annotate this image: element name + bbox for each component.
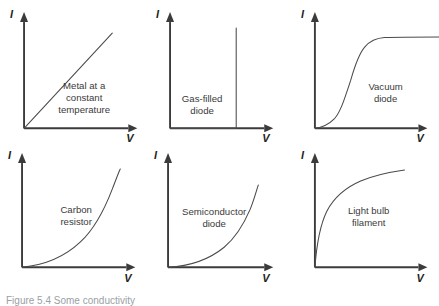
x-axis-arrowhead-icon [418, 124, 427, 132]
x-axis-arrowhead-icon [265, 124, 274, 132]
x-axis-label: V [416, 273, 425, 285]
y-axis-label: I [156, 8, 160, 20]
panel-caption-line-1: Metal at a [63, 80, 106, 91]
panel-caption-line-1: Carbon [60, 204, 92, 215]
x-axis-label: V [124, 273, 133, 285]
x-axis-arrowhead-icon [128, 124, 137, 132]
chart-panel-metal-constant-temperature: I V Metal at a constant temperature [0, 0, 146, 145]
panel-caption-line-2: filament [352, 217, 386, 228]
y-axis-arrowhead-icon [311, 12, 319, 22]
chart-panel-semiconductor-diode: I V Semiconductor diode [146, 145, 292, 290]
figure-caption: Figure 5.4 Some conductivity [6, 295, 436, 306]
x-axis-arrowhead-icon [265, 264, 274, 272]
chart-svg-semiconductor-diode: I V Semiconductor diode [146, 145, 292, 290]
chart-svg-light-bulb-filament: I V Light bulb filament [293, 145, 439, 290]
panel-caption-line-3: temperature [58, 104, 110, 115]
panel-caption-line-1: Light bulb [348, 205, 389, 216]
x-axis-label: V [416, 132, 425, 144]
x-axis-label: V [263, 273, 272, 285]
x-axis-label: V [263, 132, 272, 144]
panel-caption-line-2: diode [191, 105, 215, 116]
chart-panel-vacuum-diode: I V Vacuum diode [293, 0, 439, 145]
chart-svg-vacuum-diode: I V Vacuum diode [293, 0, 439, 145]
y-axis-arrowhead-icon [311, 153, 319, 163]
y-axis-arrowhead-icon [164, 153, 172, 163]
chart-svg-metal: I V Metal at a constant temperature [0, 0, 146, 145]
panel-caption-line-1: Gas-filled [182, 93, 223, 104]
panel-caption-line-1: Semiconductor [182, 206, 247, 217]
panel-caption-line-1: Vacuum [368, 81, 402, 92]
chart-svg-carbon-resistor: I V Carbon resistor [0, 145, 146, 290]
y-axis-arrowhead-icon [20, 12, 28, 22]
panel-caption-line-2: diode [203, 218, 227, 229]
chart-svg-gas-filled-diode: I V Gas-filled diode [146, 0, 292, 145]
y-axis-label: I [154, 149, 158, 161]
y-axis-label: I [301, 149, 305, 161]
x-axis-arrowhead-icon [126, 264, 135, 272]
x-axis-arrowhead-icon [418, 264, 427, 272]
panel-caption-line-2: constant [66, 92, 103, 103]
panel-grid: I V Metal at a constant temperature I V … [0, 0, 439, 290]
chart-panel-light-bulb-filament: I V Light bulb filament [293, 145, 439, 290]
chart-panel-gas-filled-diode: I V Gas-filled diode [146, 0, 292, 145]
panel-caption-line-2: resistor [60, 216, 92, 227]
y-axis-label: I [8, 149, 12, 161]
y-axis-label: I [301, 8, 305, 20]
chart-panel-carbon-resistor: I V Carbon resistor [0, 145, 146, 290]
y-axis-arrowhead-icon [18, 153, 26, 163]
y-axis-arrowhead-icon [166, 12, 174, 22]
panel-caption-line-2: diode [374, 93, 397, 104]
x-axis-label: V [126, 132, 135, 144]
y-axis-label: I [10, 8, 14, 20]
